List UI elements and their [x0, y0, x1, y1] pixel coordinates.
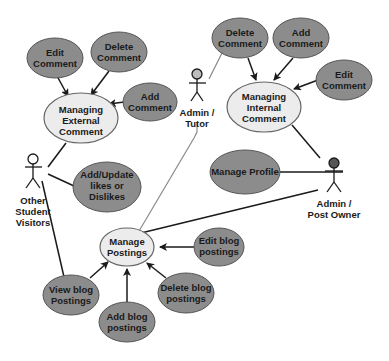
- actor-other-visitors-label-line2: Student: [15, 206, 51, 217]
- stick-figure-icon: [25, 154, 42, 188]
- uc-ext-edit-comment-line1: Edit: [46, 47, 65, 58]
- use-case-delete-blog[interactable]: Delete blog postings: [158, 273, 214, 313]
- use-case-int-edit-comment[interactable]: Edit Comment: [316, 60, 372, 100]
- actor-admin-post-owner-label-line1: Admin /: [317, 198, 352, 209]
- uc-manage-profile-line1: Manage Profile: [211, 166, 279, 177]
- uc-managing-internal-line3: Comment: [242, 113, 287, 124]
- use-case-int-delete-comment[interactable]: Delete Comment: [212, 18, 268, 58]
- uc-add-update-likes-line2: likes or: [90, 180, 124, 191]
- uc-int-edit-comment-line1: Edit: [335, 69, 354, 80]
- arrow-delete-to-external: [91, 71, 109, 95]
- use-case-manage-profile[interactable]: Manage Profile: [210, 150, 280, 194]
- uc-ext-add-comment-line1: Add: [141, 91, 160, 102]
- actor-admin-tutor-label-line1: Admin /: [180, 107, 215, 118]
- uc-edit-blog-line2: postings: [199, 246, 239, 257]
- arrow-edit-to-external: [57, 76, 68, 96]
- stick-figure-icon: [189, 69, 206, 101]
- assoc-visitors-likes: [48, 174, 74, 186]
- use-case-ext-edit-comment[interactable]: Edit Comment: [27, 38, 83, 78]
- arrow-view-to-postings: [90, 262, 108, 278]
- assoc-visitors-external: [48, 143, 66, 167]
- uc-ext-delete-comment-line1: Delete: [105, 41, 134, 52]
- actor-admin-tutor-label-line2: Tutor: [185, 118, 209, 129]
- uc-managing-external-line3: Comment: [59, 126, 104, 137]
- arrow-delete-to-postings: [147, 263, 166, 278]
- uc-managing-internal-line1: Managing: [242, 91, 287, 102]
- assoc-owner-postings: [141, 190, 318, 233]
- use-case-diagram: Managing External Comment Managing Inter…: [0, 0, 389, 361]
- use-case-edit-blog[interactable]: Edit blog postings: [194, 228, 244, 266]
- stick-figure-icon: [325, 158, 343, 192]
- use-case-view-blog[interactable]: View blog Postings: [43, 275, 99, 315]
- uc-add-blog-line1: Add blog: [106, 311, 147, 322]
- arrow-add-to-internal: [274, 58, 293, 80]
- uc-add-update-likes-line3: Dislikes: [89, 191, 125, 202]
- use-case-add-blog[interactable]: Add blog postings: [99, 302, 155, 342]
- uc-add-blog-line2: postings: [107, 322, 147, 333]
- uc-int-add-comment-line2: Comment: [279, 38, 324, 49]
- actor-other-visitors-label-line3: Visitors: [16, 217, 51, 228]
- assoc-owner-internal: [292, 125, 320, 158]
- arrow-edit-to-internal: [294, 80, 318, 89]
- assoc-tutor-delete: [209, 53, 222, 79]
- use-case-int-add-comment[interactable]: Add Comment: [273, 18, 329, 58]
- uc-managing-internal-line2: Internal: [247, 102, 281, 113]
- uc-int-delete-comment-line1: Delete: [226, 27, 255, 38]
- use-case-add-update-likes[interactable]: Add/Update likes or Dislikes: [73, 162, 141, 212]
- uc-manage-postings-line2: Postings: [107, 247, 147, 258]
- actor-other-visitors[interactable]: Other Student Visitors: [15, 154, 51, 228]
- uc-delete-blog-line2: postings: [166, 293, 206, 304]
- uc-delete-blog-line1: Delete blog: [160, 282, 211, 293]
- uc-add-update-likes-line1: Add/Update: [80, 169, 133, 180]
- uc-view-blog-line1: View blog: [49, 284, 93, 295]
- associations: [42, 53, 343, 277]
- use-case-ext-add-comment[interactable]: Add Comment: [123, 83, 177, 121]
- actor-admin-post-owner[interactable]: Admin / Post Owner: [308, 158, 361, 220]
- uc-manage-postings-line1: Manage: [109, 236, 144, 247]
- uc-edit-blog-line1: Edit blog: [199, 235, 240, 246]
- uc-ext-delete-comment-line2: Comment: [97, 52, 142, 63]
- use-case-ext-delete-comment[interactable]: Delete Comment: [91, 32, 147, 72]
- uc-int-edit-comment-line2: Comment: [322, 80, 367, 91]
- actor-admin-post-owner-label-line2: Post Owner: [308, 209, 361, 220]
- use-case-manage-postings[interactable]: Manage Postings: [100, 228, 154, 266]
- uc-ext-edit-comment-line2: Comment: [33, 58, 78, 69]
- use-case-managing-internal[interactable]: Managing Internal Comment: [227, 82, 301, 132]
- uc-view-blog-line2: Postings: [51, 295, 91, 306]
- assoc-tutor-postings: [132, 122, 197, 243]
- uc-managing-external-line1: Managing: [59, 104, 104, 115]
- uc-ext-add-comment-line2: Comment: [128, 102, 173, 113]
- use-case-managing-external[interactable]: Managing External Comment: [44, 93, 118, 143]
- uc-managing-external-line2: External: [62, 115, 100, 126]
- uc-int-add-comment-line1: Add: [292, 27, 311, 38]
- arrow-delete-to-internal: [248, 58, 256, 80]
- actor-other-visitors-label-line1: Other: [20, 195, 46, 206]
- uc-int-delete-comment-line2: Comment: [218, 38, 263, 49]
